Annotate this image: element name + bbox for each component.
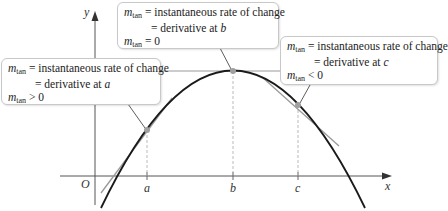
point-c xyxy=(295,102,301,108)
callout-connector-c xyxy=(300,85,310,103)
callout-box-b: mtan = instantaneous rate of change = de… xyxy=(117,2,279,49)
point-a xyxy=(144,127,150,133)
callout-box-a: mtan = instantaneous rate of change = de… xyxy=(1,58,161,105)
callout-b-line2: = derivative at b xyxy=(124,22,272,35)
callout-connector-b xyxy=(220,48,231,69)
tangent-line-c xyxy=(262,77,339,146)
callout-c-line1: mtan = instantaneous rate of change xyxy=(287,40,431,56)
y-axis-arrow-icon xyxy=(92,11,99,21)
origin-label: O xyxy=(81,177,90,192)
callout-c-line3: mtan < 0 xyxy=(287,69,431,85)
tick-label-a: a xyxy=(144,181,150,196)
callout-box-c: mtan = instantaneous rate of change = de… xyxy=(280,36,438,85)
x-axis-label: x xyxy=(385,179,390,194)
callout-b-line1: mtan = instantaneous rate of change xyxy=(124,6,272,22)
callout-b-line3: mtan = 0 xyxy=(124,35,272,51)
tick-label-c: c xyxy=(295,181,300,196)
tick-label-b: b xyxy=(230,181,236,196)
point-b xyxy=(230,68,236,74)
y-axis-label: y xyxy=(84,5,89,20)
callout-a-line3: mtan > 0 xyxy=(8,91,154,107)
callout-c-line2: = derivative at c xyxy=(287,56,431,69)
callout-a-line1: mtan = instantaneous rate of change xyxy=(8,62,154,78)
callout-a-line2: = derivative at a xyxy=(8,78,154,91)
callout-connector-a xyxy=(128,104,145,128)
